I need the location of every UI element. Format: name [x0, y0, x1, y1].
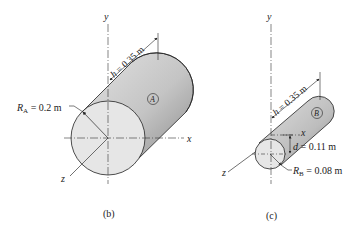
radius-label-a: RA = 0.2 m: [16, 102, 62, 115]
y-axis-label-b: y: [103, 11, 109, 22]
x-axis-label-c: x: [300, 127, 306, 138]
x-axis-label-b: x: [186, 133, 192, 144]
body-label-b: B: [314, 109, 319, 118]
diagram-canvas: y x z A RA = 0.2 m h = 0.35 m (b) y x z …: [0, 0, 361, 233]
offset-label-c: d = 0.11 m: [293, 141, 336, 152]
figure-b: [64, 24, 193, 184]
body-label-a: A: [149, 95, 155, 104]
z-axis-label-b: z: [60, 173, 65, 184]
z-axis-label-c: z: [221, 167, 226, 178]
radius-label-b: RB = 0.08 m: [292, 165, 342, 178]
caption-b: (b): [103, 208, 115, 220]
caption-c: (c): [266, 210, 277, 222]
y-axis-label-c: y: [266, 11, 272, 22]
